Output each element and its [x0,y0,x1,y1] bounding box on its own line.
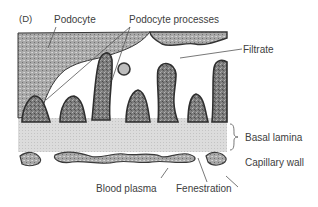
label-filtrate: Filtrate [243,44,274,55]
label-podocyte-processes: Podocyte processes [129,14,219,25]
label-blood-plasma: Blood plasma [96,183,157,194]
label-basal-lamina: Basal lamina [245,132,302,143]
label-fenestration: Fenestration [176,183,232,194]
capillary-wall [20,152,226,166]
label-capillary-wall: Capillary wall [245,157,304,168]
podocyte-upper-right [150,32,227,45]
vesicle [118,63,130,75]
label-podocyte: Podocyte [54,14,96,25]
micrograph [0,0,318,207]
basal-lamina-region [18,118,227,152]
